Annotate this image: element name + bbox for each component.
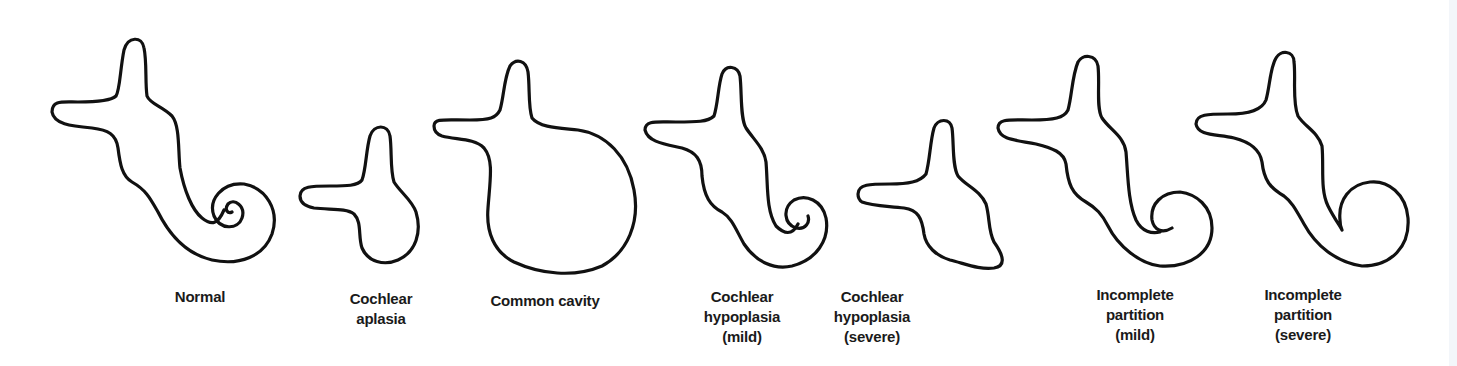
label-incomplete-partition-mild: Incomplete partition (mild): [1096, 285, 1173, 345]
cochlear-hypoplasia-severe-outline: [858, 121, 1002, 269]
label-normal: Normal: [175, 287, 225, 307]
common-cavity-outline: [434, 61, 636, 273]
cochlear-hypoplasia-mild-outline: [645, 67, 827, 267]
incomplete-partition-severe-outline: [1196, 52, 1408, 266]
label-cochlear-aplasia: Cochlear aplasia: [350, 289, 413, 329]
incomplete-partition-mild-outline: [998, 56, 1212, 266]
inner-ear-malformation-figure: Normal Cochlear aplasia Common cavity Co…: [0, 0, 1457, 366]
normal-inner-ear-outline: [52, 39, 274, 261]
label-common-cavity: Common cavity: [490, 291, 599, 311]
cochlear-aplasia-outline: [300, 127, 418, 263]
label-incomplete-partition-severe: Incomplete partition (severe): [1264, 285, 1341, 345]
label-cochlear-hypoplasia-mild: Cochlear hypoplasia (mild): [704, 287, 780, 347]
label-cochlear-hypoplasia-severe: Cochlear hypoplasia (severe): [834, 287, 910, 347]
